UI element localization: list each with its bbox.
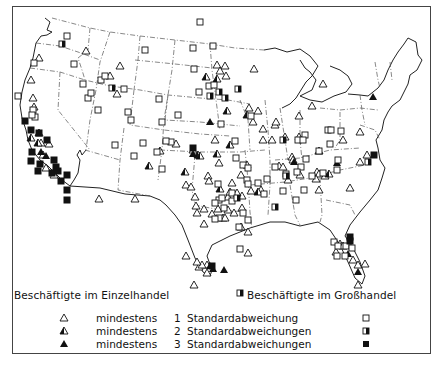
square-open-marker [335, 243, 341, 249]
square-open-marker [233, 155, 239, 161]
square-open-marker [316, 148, 322, 154]
square-open-marker [232, 138, 238, 144]
square-half-fill [238, 86, 241, 92]
square-open-marker [159, 166, 165, 172]
square-open-marker [327, 141, 333, 147]
square-open-marker [303, 156, 309, 162]
square-open-marker [175, 112, 181, 118]
square-open-marker [140, 140, 146, 146]
triangle-open-marker [319, 80, 327, 87]
triangle-open-marker [191, 193, 199, 200]
triangle-open-marker [27, 76, 35, 83]
triangle-open-marker [116, 62, 124, 69]
square-open-marker [112, 142, 118, 148]
markers [15, 19, 378, 296]
triangle-open-marker [363, 151, 371, 158]
triangle-open-marker [215, 159, 223, 166]
square-filled-marker [36, 130, 43, 137]
square-open-marker [159, 119, 165, 125]
square-filled-marker [58, 178, 65, 185]
square-filled-marker [28, 158, 35, 165]
square-open-marker [245, 217, 251, 223]
legend-prefix: mindestens [96, 325, 157, 337]
triangle-open-marker [356, 158, 364, 165]
legend-header-retail: Beschäftigte im Einzelhandel [14, 289, 169, 301]
square-filled-marker [49, 170, 56, 177]
square-filled-marker [22, 118, 29, 125]
legend-count: 3 [174, 338, 181, 350]
square-half-fill [283, 137, 286, 143]
triangle-open-marker [193, 258, 201, 265]
square-open-marker [211, 82, 217, 88]
square-open-marker [15, 93, 21, 99]
triangle-open-marker [354, 281, 362, 288]
triangle-open-marker [272, 118, 280, 125]
square-filled-marker [64, 172, 71, 179]
legend-count: 2 [174, 325, 181, 337]
square-open-marker [245, 181, 251, 187]
square-open-marker [121, 86, 127, 92]
triangle-open-marker [247, 187, 255, 194]
square-open-marker [335, 157, 341, 163]
legend-label: Standardabweichungen [187, 338, 311, 350]
legend-row-1: mindestens 1 Standardabweichung [0, 312, 443, 326]
square-open-marker [154, 149, 160, 155]
square-half-fill [219, 89, 222, 95]
square-open-marker [88, 90, 94, 96]
square-open-marker [128, 117, 134, 123]
square-open-marker [163, 138, 169, 144]
square-open-marker [156, 96, 162, 102]
square-open-marker [280, 188, 286, 194]
us-outline [20, 18, 422, 284]
square-open-marker [80, 81, 86, 87]
square-open-marker [261, 191, 267, 197]
square-half-fill [237, 195, 240, 201]
triangle-open-marker [190, 281, 198, 288]
triangle-open-marker [268, 136, 276, 143]
square-open-marker [215, 181, 221, 187]
square-open-marker [71, 61, 77, 67]
triangle-open-marker [315, 186, 323, 193]
triangle-open-marker [346, 184, 354, 191]
square-open-marker [300, 137, 306, 143]
square-open-marker [64, 33, 70, 39]
triangle-open-marker [259, 125, 267, 132]
triangle-open-marker [356, 128, 364, 135]
triangle-open-marker [349, 256, 357, 263]
square-open-marker [218, 121, 224, 127]
legend-header-wholesale: Beschäftigte im Großhandel [247, 289, 396, 301]
square-open-marker [131, 153, 137, 159]
triangle-open-marker [245, 104, 253, 111]
triangle-open-marker [259, 136, 267, 143]
triangle-filled-marker [206, 118, 214, 125]
legend-row-3: mindestens 3 Standardabweichungen [0, 338, 443, 352]
square-half-fill [240, 290, 243, 296]
legend-label: Standardabweichung [187, 312, 298, 324]
square-open-marker [125, 109, 131, 115]
triangle-open-marker [131, 195, 139, 202]
square-filled-marker [29, 149, 36, 156]
square-open-marker [294, 169, 300, 175]
square-open-marker [212, 216, 218, 222]
square-filled-marker [64, 187, 71, 194]
square-filled-marker [35, 168, 42, 175]
square-open-marker [293, 197, 299, 203]
square-half-fill [62, 41, 65, 47]
square-filled-marker [190, 145, 197, 152]
square-open-marker [196, 89, 202, 95]
legend-prefix: mindestens [96, 338, 157, 350]
triangle-open-marker [182, 252, 190, 259]
triangle-open-marker [244, 249, 252, 256]
square-open-marker [31, 60, 37, 66]
triangle-open-marker [193, 209, 201, 216]
square-half-fill [286, 173, 289, 179]
triangle-open-marker [200, 220, 208, 227]
triangle-open-marker [221, 62, 229, 69]
us-map [0, 0, 443, 365]
square-open-marker [349, 245, 355, 251]
legend-label: Standardabweichungen [187, 325, 311, 337]
legend-count: 1 [174, 312, 181, 324]
square-open-marker [219, 195, 225, 201]
square-open-marker [210, 43, 216, 49]
square-open-marker [240, 210, 246, 216]
